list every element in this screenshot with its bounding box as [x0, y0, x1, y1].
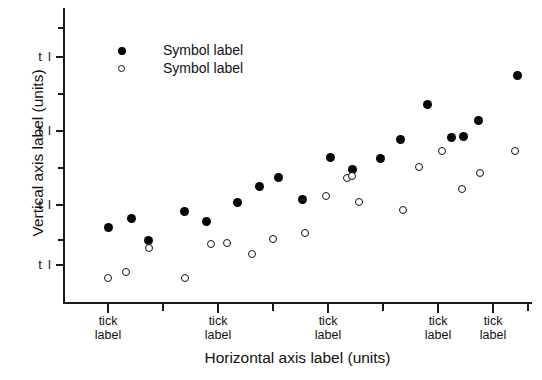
x-tick-6 — [437, 304, 439, 313]
x-tick-label-line2: label — [450, 328, 536, 342]
y-tick-label-1: t l — [6, 123, 52, 138]
data-point-s1-13 — [399, 206, 407, 214]
x-tick-1 — [162, 304, 164, 311]
y-tick-7 — [56, 264, 65, 266]
x-tick-5 — [382, 304, 384, 311]
data-point-s1-17 — [476, 169, 484, 177]
scatter-chart-figure: Vertical axis label (units) Horizontal a… — [0, 0, 542, 380]
data-point-s1-11 — [348, 172, 356, 180]
legend-item-label: Symbol label — [163, 42, 243, 58]
y-tick-label-3: t l — [6, 257, 52, 272]
data-point-s0-7 — [274, 173, 283, 182]
y-tick-3 — [56, 130, 65, 132]
data-point-s0-12 — [396, 135, 405, 144]
x-tick-label-line1: tick — [450, 314, 536, 328]
y-tick-6 — [58, 239, 65, 241]
data-point-s0-17 — [513, 71, 522, 80]
data-point-s1-7 — [269, 235, 277, 243]
x-tick-label-4: ticklabel — [450, 314, 536, 342]
data-point-s0-1 — [127, 214, 136, 223]
x-tick-label-line1: tick — [285, 314, 371, 328]
data-point-s1-9 — [322, 192, 330, 200]
legend-item-label: Symbol label — [163, 60, 243, 76]
data-point-s1-1 — [122, 268, 130, 276]
y-tick-0 — [58, 27, 65, 29]
data-point-s1-16 — [458, 185, 466, 193]
data-point-s0-16 — [474, 116, 483, 125]
x-tick-0 — [107, 304, 109, 313]
x-tick-8 — [527, 304, 529, 311]
x-tick-3 — [272, 304, 274, 311]
y-tick-label-0: t l — [6, 49, 52, 64]
x-tick-label-0: ticklabel — [65, 314, 151, 342]
data-point-s1-18 — [511, 147, 519, 155]
x-tick-label-2: ticklabel — [285, 314, 371, 342]
x-tick-7 — [492, 304, 494, 313]
data-point-s0-8 — [298, 195, 307, 204]
data-point-s1-14 — [415, 163, 423, 171]
x-tick-label-1: ticklabel — [175, 314, 261, 342]
data-point-s1-4 — [207, 240, 215, 248]
y-tick-1 — [56, 56, 65, 58]
data-point-s0-0 — [104, 223, 113, 232]
data-point-s0-14 — [447, 133, 456, 142]
data-point-s1-6 — [248, 250, 256, 258]
x-tick-4 — [327, 304, 329, 313]
y-tick-2 — [58, 93, 65, 95]
data-point-s0-6 — [255, 182, 264, 191]
x-tick-label-line1: tick — [65, 314, 151, 328]
data-point-s0-11 — [376, 154, 385, 163]
y-tick-5 — [56, 204, 65, 206]
data-point-s1-15 — [438, 147, 446, 155]
x-tick-label-line2: label — [175, 328, 261, 342]
y-tick-4 — [58, 167, 65, 169]
data-point-s1-8 — [301, 229, 309, 237]
data-point-s1-0 — [104, 274, 112, 282]
x-tick-label-line2: label — [65, 328, 151, 342]
data-point-s1-12 — [355, 198, 363, 206]
data-point-s0-13 — [423, 100, 432, 109]
x-axis-line — [63, 302, 532, 304]
open-circle-icon — [118, 65, 125, 72]
data-point-s0-15 — [459, 132, 468, 141]
data-point-s0-9 — [326, 153, 335, 162]
x-tick-2 — [217, 304, 219, 313]
x-axis-title: Horizontal axis label (units) — [63, 349, 532, 367]
x-tick-label-line1: tick — [175, 314, 261, 328]
x-tick-label-line2: label — [285, 328, 371, 342]
y-axis-line — [63, 8, 65, 304]
data-point-s1-2 — [145, 244, 153, 252]
data-point-s1-3 — [181, 274, 189, 282]
data-point-s0-4 — [202, 217, 211, 226]
filled-circle-icon — [118, 47, 126, 55]
data-point-s0-5 — [233, 198, 242, 207]
data-point-s0-3 — [180, 207, 189, 216]
data-point-s1-5 — [223, 239, 231, 247]
y-tick-label-2: t l — [6, 197, 52, 212]
